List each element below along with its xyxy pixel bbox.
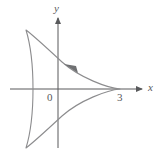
plot-canvas <box>0 0 160 161</box>
deltoid-figure: y x 0 3 <box>0 0 160 161</box>
x-axis-label: x <box>148 82 153 93</box>
x-axis-arrowhead-icon <box>136 86 143 92</box>
x-tick-label-3: 3 <box>117 92 123 103</box>
y-axis-arrowhead-icon <box>55 17 61 24</box>
origin-label: 0 <box>47 92 53 103</box>
y-axis-label: y <box>54 3 59 14</box>
